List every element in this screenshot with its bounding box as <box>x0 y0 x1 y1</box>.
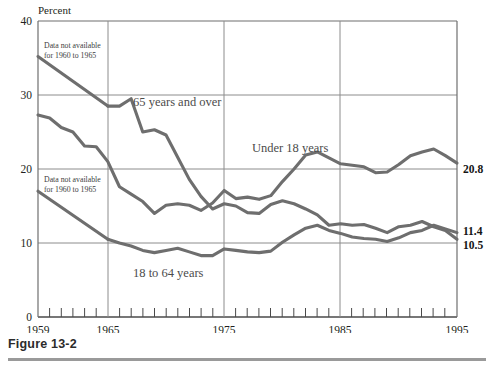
series-line <box>108 225 457 255</box>
series-label-under18: Under 18 years <box>252 141 328 155</box>
note-over65-line1: Data not available <box>44 41 101 50</box>
y-axis-tick-labels: 40 30 20 10 0 <box>21 15 33 323</box>
note-adults-line2: for 1960 to 1965 <box>44 185 96 194</box>
y-tick-40: 40 <box>21 15 33 27</box>
note-over65: Data not available for 1960 to 1965 <box>44 41 101 60</box>
end-label-adults: 11.4 <box>463 225 483 237</box>
x-tick-1959: 1959 <box>27 324 50 333</box>
series-label-over65: 65 years and over <box>133 95 222 109</box>
y-tick-10: 10 <box>21 237 33 249</box>
x-tick-1985: 1985 <box>329 324 352 333</box>
caption-divider <box>8 358 486 361</box>
note-over65-line2: for 1960 to 1965 <box>44 51 96 60</box>
x-tick-1965: 1965 <box>97 324 120 333</box>
x-axis-tick-labels: 1959 1965 1975 1985 1995 <box>27 324 469 333</box>
note-adults-line1: Data not available <box>44 175 101 184</box>
series-line <box>38 115 457 213</box>
series-label-adults: 18 to 64 years <box>133 266 204 280</box>
x-tick-1975: 1975 <box>213 324 236 333</box>
y-axis-title: Percent <box>38 4 71 16</box>
figure-13-2: Percent <box>0 0 494 373</box>
data-series-layer <box>38 57 457 256</box>
end-label-over65: 10.5 <box>463 239 483 251</box>
x-axis-ticks <box>50 308 445 317</box>
figure-caption-bar: Figure 13-2 <box>0 333 494 373</box>
y-tick-30: 30 <box>21 89 33 101</box>
y-tick-0: 0 <box>26 311 32 323</box>
end-label-under18: 20.8 <box>463 163 483 175</box>
series-gap-connector <box>38 191 108 239</box>
figure-caption: Figure 13-2 <box>8 337 77 351</box>
x-tick-1995: 1995 <box>446 324 469 333</box>
y-tick-20: 20 <box>21 163 33 175</box>
poverty-rate-line-chart: Percent <box>0 0 494 333</box>
note-adults: Data not available for 1960 to 1965 <box>44 175 101 194</box>
series-gap-connector <box>38 57 108 107</box>
